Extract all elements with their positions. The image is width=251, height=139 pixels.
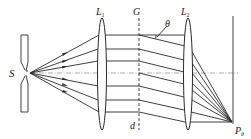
label-point: Pθ	[234, 125, 244, 137]
lens-1	[98, 18, 107, 130]
label-lens1: L1	[95, 6, 105, 18]
label-angle: θ	[165, 18, 170, 29]
source-rays	[30, 35, 99, 112]
converging-rays	[190, 50, 232, 122]
grating-diffraction-diagram: S L1 G L2 θ d Pθ	[0, 0, 251, 139]
label-grating: G	[133, 6, 140, 17]
parallel-rays	[104, 35, 139, 112]
label-spacing: d	[130, 120, 136, 131]
diffracted-rays	[139, 35, 185, 122]
lens-2	[184, 18, 193, 130]
slit	[21, 35, 28, 112]
label-source: S	[9, 67, 15, 79]
label-lens2: L2	[180, 6, 190, 18]
